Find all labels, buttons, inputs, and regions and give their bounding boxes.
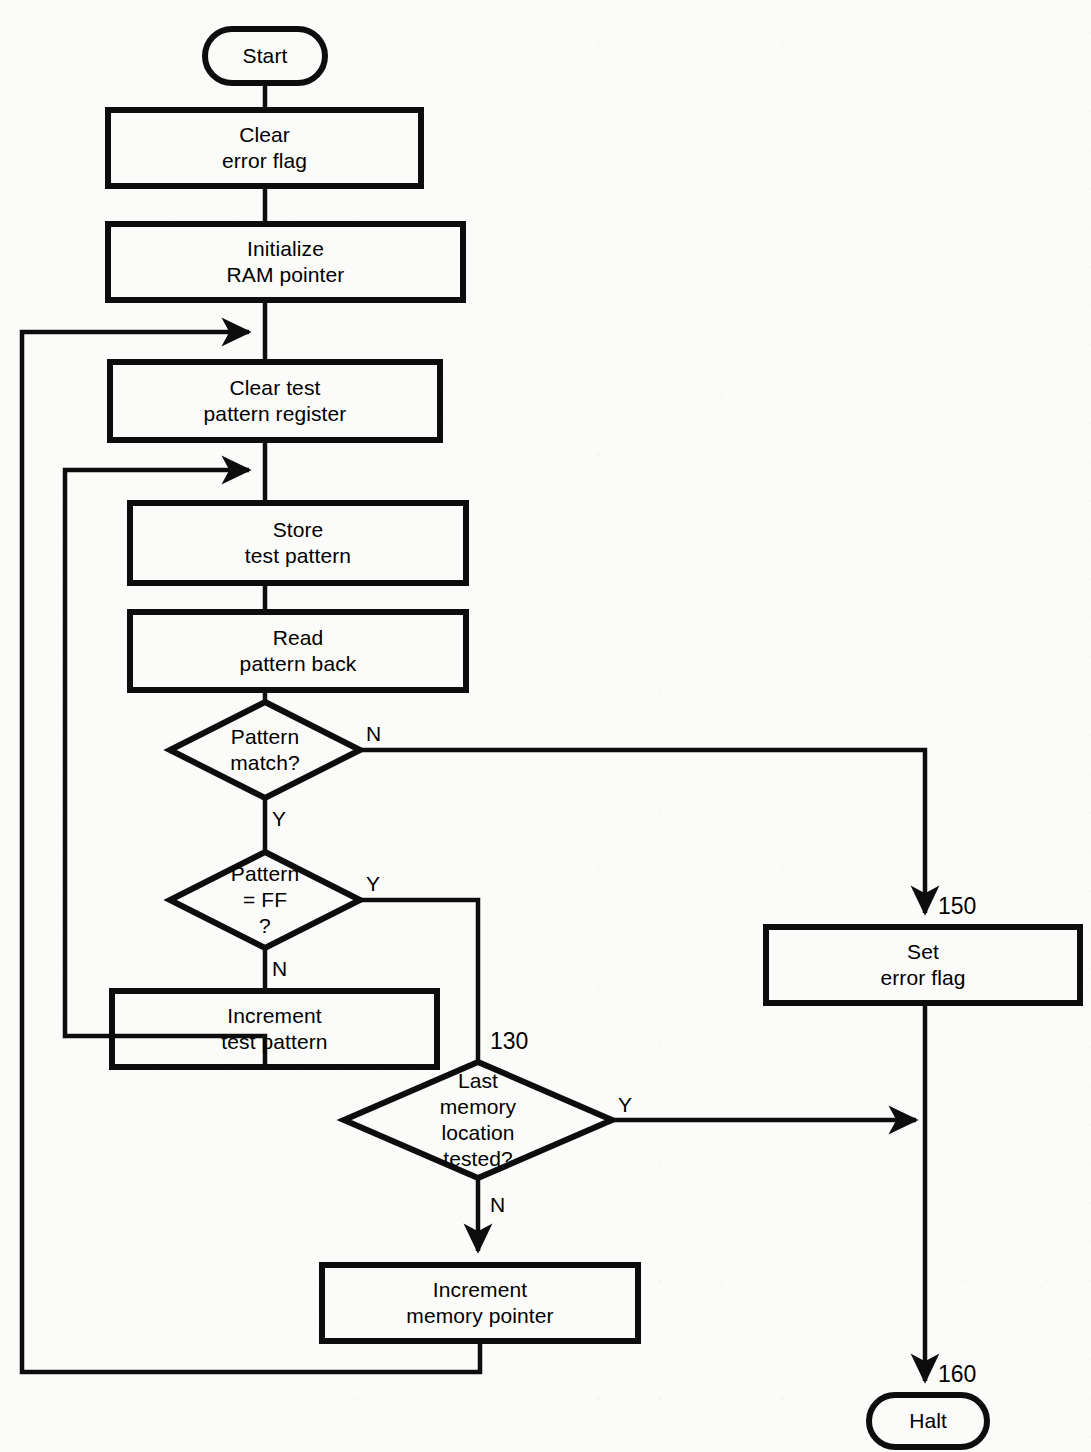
edge-label-pattern-match-yes: Y [272,808,286,829]
edge-label-last-memory-yes: Y [618,1094,632,1115]
flowchart-canvas [0,0,1091,1452]
shape-read-pattern-back [130,612,466,690]
shape-pattern-match [170,702,360,798]
line-number-150: 150 [938,895,976,918]
shape-init-ram-pointer [108,224,463,300]
line-number-160: 160 [938,1363,976,1386]
shape-last-memory-location-tested [344,1062,612,1178]
edge-pattern-match-no-to-set-error-flag [360,750,925,913]
shape-store-test-pattern [130,503,466,583]
edge-label-pattern-match-no: N [366,723,381,744]
edge-label-pattern-ff-no: N [272,958,287,979]
shape-increment-test-pattern [112,991,437,1067]
shape-pattern-equals-ff [170,852,360,948]
edge-label-last-memory-no: N [490,1194,505,1215]
flowchart-page: Start Clear error flag Initialize RAM po… [0,0,1091,1452]
shape-start [205,29,325,83]
edge-outer-loop-return [22,332,480,1372]
shape-clear-test-pattern-register [110,362,440,440]
shape-halt [869,1395,987,1447]
edge-label-pattern-ff-yes: Y [366,873,380,894]
line-number-130: 130 [490,1030,528,1053]
shape-set-error-flag [766,927,1080,1003]
shape-clear-error-flag [108,110,421,186]
shape-increment-memory-pointer [322,1265,638,1341]
